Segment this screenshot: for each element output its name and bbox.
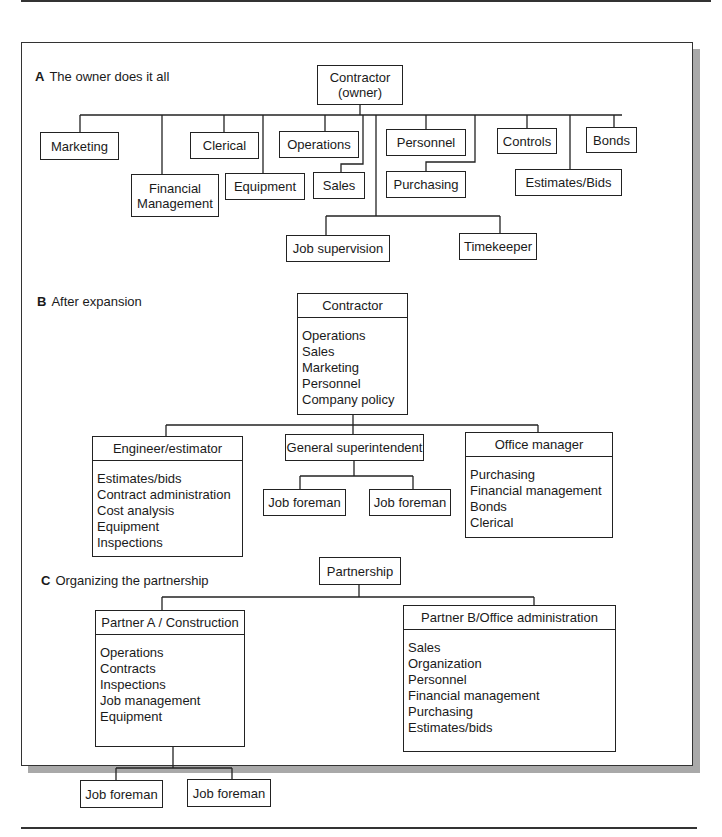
card-item: Operations bbox=[100, 645, 240, 661]
job-foreman-node: Job foreman bbox=[263, 489, 346, 516]
card-items: Operations Contracts Inspections Job man… bbox=[96, 635, 244, 729]
job-foreman-node: Job foreman bbox=[80, 780, 163, 808]
card-item: Estimates/bids bbox=[97, 471, 238, 487]
node-label: Financial bbox=[149, 181, 201, 196]
card-item: Inspections bbox=[97, 535, 238, 551]
card-item: Company policy bbox=[302, 392, 403, 408]
purchasing-node: Purchasing bbox=[386, 171, 466, 198]
card-items: Estimates/bids Contract administration C… bbox=[93, 461, 242, 555]
section-a-label: AThe owner does it all bbox=[35, 69, 169, 84]
card-item: Contract administration bbox=[97, 487, 238, 503]
job-foreman-node: Job foreman bbox=[369, 489, 451, 516]
card-item: Sales bbox=[408, 640, 611, 656]
node-label: Equipment bbox=[234, 179, 296, 194]
controls-node: Controls bbox=[497, 128, 557, 154]
node-label: Job supervision bbox=[293, 241, 383, 256]
node-label: Marketing bbox=[51, 139, 108, 154]
node-label: Purchasing bbox=[393, 177, 458, 192]
node-label: Job foreman bbox=[193, 786, 265, 801]
card-item: Personnel bbox=[302, 376, 403, 392]
card-items: Sales Organization Personnel Financial m… bbox=[404, 630, 615, 740]
card-title: Engineer/estimator bbox=[93, 437, 242, 461]
card-item: Bonds bbox=[470, 499, 608, 515]
financial-management-node: Financial Management bbox=[131, 174, 219, 217]
section-letter: A bbox=[35, 69, 44, 84]
card-item: Organization bbox=[408, 656, 611, 672]
node-label: Job foreman bbox=[85, 787, 157, 802]
node-label: Operations bbox=[287, 137, 351, 152]
timekeeper-node: Timekeeper bbox=[459, 233, 537, 260]
card-items: Purchasing Financial management Bonds Cl… bbox=[466, 457, 612, 535]
node-label: General superintendent bbox=[287, 440, 423, 455]
partner-b-card: Partner B/Office administration Sales Or… bbox=[403, 605, 616, 752]
card-item: Equipment bbox=[100, 709, 240, 725]
node-label: Job foreman bbox=[268, 495, 340, 510]
node-label: Controls bbox=[503, 134, 551, 149]
node-label: Sales bbox=[323, 178, 356, 193]
card-item: Estimates/bids bbox=[408, 720, 611, 736]
card-item: Purchasing bbox=[470, 467, 608, 483]
card-title: Office manager bbox=[466, 433, 612, 457]
section-title: After expansion bbox=[51, 294, 141, 309]
card-title: Contractor bbox=[298, 294, 407, 318]
section-title: The owner does it all bbox=[49, 69, 169, 84]
section-letter: B bbox=[37, 294, 46, 309]
card-item: Job management bbox=[100, 693, 240, 709]
section-letter: C bbox=[41, 573, 50, 588]
card-item: Marketing bbox=[302, 360, 403, 376]
card-item: Clerical bbox=[470, 515, 608, 531]
job-foreman-node: Job foreman bbox=[187, 779, 271, 807]
node-label: Bonds bbox=[593, 133, 630, 148]
partner-a-card: Partner A / Construction Operations Cont… bbox=[95, 610, 245, 747]
card-title: Partner B/Office administration bbox=[404, 606, 615, 630]
node-label: Estimates/Bids bbox=[526, 175, 612, 190]
card-item: Operations bbox=[302, 328, 403, 344]
node-label: Management bbox=[137, 196, 213, 211]
card-item: Financial management bbox=[408, 688, 611, 704]
card-item: Personnel bbox=[408, 672, 611, 688]
engineer-estimator-card: Engineer/estimator Estimates/bids Contra… bbox=[92, 436, 243, 557]
card-item: Inspections bbox=[100, 677, 240, 693]
marketing-node: Marketing bbox=[40, 132, 119, 160]
equipment-node: Equipment bbox=[225, 173, 305, 200]
sales-node: Sales bbox=[313, 172, 365, 199]
node-label: Job foreman bbox=[374, 495, 446, 510]
card-items: Operations Sales Marketing Personnel Com… bbox=[298, 318, 407, 412]
partnership-node: Partnership bbox=[319, 557, 401, 585]
general-superintendent-node: General superintendent bbox=[285, 434, 424, 461]
card-item: Financial management bbox=[470, 483, 608, 499]
node-label: Partnership bbox=[327, 564, 393, 579]
section-title: Organizing the partnership bbox=[55, 573, 208, 588]
office-manager-card: Office manager Purchasing Financial mana… bbox=[465, 432, 613, 538]
contractor-card: Contractor Operations Sales Marketing Pe… bbox=[297, 293, 408, 415]
section-b-label: BAfter expansion bbox=[37, 294, 142, 309]
card-item: Equipment bbox=[97, 519, 238, 535]
card-item: Cost analysis bbox=[97, 503, 238, 519]
bonds-node: Bonds bbox=[586, 127, 637, 153]
node-label: Personnel bbox=[397, 135, 456, 150]
card-item: Sales bbox=[302, 344, 403, 360]
job-supervision-node: Job supervision bbox=[286, 235, 390, 262]
card-item: Purchasing bbox=[408, 704, 611, 720]
section-c-label: COrganizing the partnership bbox=[41, 573, 209, 588]
node-label: (owner) bbox=[338, 85, 382, 100]
personnel-node: Personnel bbox=[386, 129, 466, 156]
node-label: Timekeeper bbox=[464, 239, 532, 254]
estimates-bids-node: Estimates/Bids bbox=[515, 169, 622, 196]
node-label: Contractor bbox=[330, 70, 391, 85]
card-item: Contracts bbox=[100, 661, 240, 677]
card-title: Partner A / Construction bbox=[96, 611, 244, 635]
node-label: Clerical bbox=[203, 138, 246, 153]
clerical-node: Clerical bbox=[190, 132, 259, 159]
contractor-owner-node: Contractor (owner) bbox=[317, 65, 403, 105]
operations-node: Operations bbox=[279, 131, 359, 158]
